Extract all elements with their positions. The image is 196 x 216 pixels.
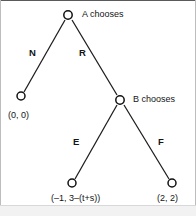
node-leaf-n [17, 92, 25, 100]
node-b [116, 96, 124, 104]
branch-label-r: R [79, 48, 86, 58]
branch-label-n: N [29, 48, 36, 58]
node-root-a [64, 11, 72, 19]
branch-label-e: E [73, 137, 79, 147]
node-label-a-chooses: A chooses [82, 10, 124, 19]
payoff-label-middle: (–1, 3–(t+s)) [51, 194, 100, 203]
payoff-label-left: (0, 0) [8, 111, 29, 120]
node-leaf-f [168, 179, 176, 187]
node-label-b-chooses: B chooses [133, 95, 175, 104]
node-leaf-e [68, 179, 76, 187]
branch-label-f: F [158, 137, 164, 147]
edge-node-b-to-leaf-e [75, 105, 117, 179]
tree-graphic [0, 0, 196, 216]
payoff-label-right: (2, 2) [157, 194, 178, 203]
game-tree-diagram: A chooses B chooses N R E F (0, 0) (–1, … [0, 0, 196, 216]
